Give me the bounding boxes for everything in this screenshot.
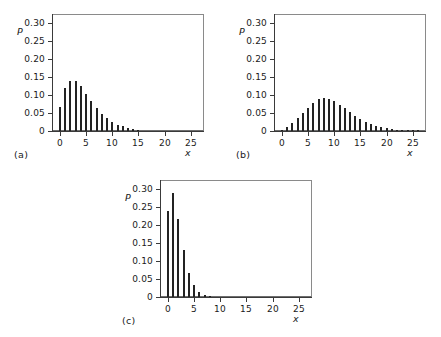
panel-a-x-axis-label: x (185, 148, 191, 158)
panel-b-x-tick-label: 15 (345, 139, 375, 148)
panel-c-x-ticks: 0510152025 (108, 170, 348, 337)
panel-a-x-tick (191, 132, 192, 136)
panel-a-x-tick (138, 132, 139, 136)
panel-a-x-ticks: 0510152025 (0, 0, 215, 170)
panel-b-x-tick-label: 25 (398, 139, 428, 148)
panel-b-x-tick (387, 132, 388, 136)
panel-a-x-tick-label: 15 (123, 139, 153, 148)
panel-c-x-tick (299, 298, 300, 302)
panel-c: P 0.300.250.200.150.100.050 0510152025 x… (108, 170, 348, 337)
panel-b-x-ticks: 0510152025 (222, 0, 441, 170)
panel-c-x-axis-line (160, 297, 312, 298)
panel-c-x-tick (246, 298, 247, 302)
panel-c-x-tick (194, 298, 195, 302)
panel-c-label: (c) (122, 316, 136, 326)
panel-c-x-tick-label: 15 (231, 305, 261, 314)
panel-c-x-tick (273, 298, 274, 302)
panel-a-x-tick (86, 132, 87, 136)
panel-b-x-axis-label: x (407, 148, 413, 158)
panel-c-x-axis-label: x (293, 314, 299, 324)
panel-a-x-tick (165, 132, 166, 136)
panel-b-x-tick (308, 132, 309, 136)
panel-a-x-tick (112, 132, 113, 136)
panel-a-x-axis-line (52, 131, 204, 132)
panel-c-x-tick (168, 298, 169, 302)
panel-a: P 0.300.250.200.150.100.050 0510152025 x… (0, 0, 215, 170)
panel-a-x-tick (60, 132, 61, 136)
panel-b-x-tick (360, 132, 361, 136)
panel-b-x-tick (282, 132, 283, 136)
panel-b-label: (b) (236, 150, 250, 160)
panel-b-x-axis-line (274, 131, 426, 132)
panel-a-x-tick-label: 25 (176, 139, 206, 148)
panel-c-x-tick-label: 25 (284, 305, 314, 314)
panel-c-x-tick (220, 298, 221, 302)
panel-b: P 0.300.250.200.150.100.050 0510152025 x… (222, 0, 441, 170)
panel-b-x-tick (413, 132, 414, 136)
panel-a-label: (a) (14, 150, 28, 160)
panel-b-x-tick (334, 132, 335, 136)
figure-three-distribution-plots: P 0.300.250.200.150.100.050 0510152025 x… (0, 0, 441, 337)
